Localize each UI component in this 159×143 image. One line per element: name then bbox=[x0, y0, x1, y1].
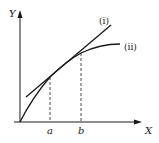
line-i-label: (i) bbox=[99, 17, 109, 26]
diagram-canvas bbox=[0, 0, 159, 143]
curve-ii bbox=[20, 44, 120, 122]
tick-label-b: b bbox=[78, 126, 84, 136]
x-axis-arrow-icon bbox=[134, 120, 142, 125]
y-axis-arrow-icon bbox=[18, 10, 23, 18]
tick-label-a: a bbox=[47, 126, 53, 136]
curve-ii-label: (ii) bbox=[124, 43, 137, 52]
x-axis-label: X bbox=[145, 126, 152, 136]
y-axis-label: Y bbox=[9, 9, 16, 19]
